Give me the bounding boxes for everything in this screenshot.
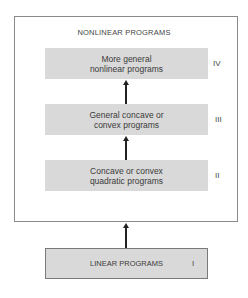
level-label-ii: II xyxy=(215,171,219,180)
level-label-iii: III xyxy=(215,115,222,124)
arrow-up-icon xyxy=(125,227,127,248)
level-label-i: I xyxy=(192,259,194,268)
box-more-general-nonlinear: More general nonlinear programs xyxy=(45,48,208,79)
box-general-concave-convex: General concave or convex programs xyxy=(45,104,208,135)
box-label: Concave or convex quadratic programs xyxy=(90,166,163,186)
arrow-up-icon xyxy=(125,84,127,104)
box-concave-convex-quadratic: Concave or convex quadratic programs xyxy=(45,160,208,191)
box-label: More general nonlinear programs xyxy=(90,54,163,74)
container-title: NONLINEAR PROGRAMS xyxy=(0,28,248,37)
box-linear-programs: LINEAR PROGRAMS xyxy=(45,248,208,279)
box-label: LINEAR PROGRAMS xyxy=(90,259,163,269)
box-label: General concave or convex programs xyxy=(89,110,163,130)
arrow-up-icon xyxy=(125,140,127,160)
level-label-iv: IV xyxy=(213,59,221,68)
